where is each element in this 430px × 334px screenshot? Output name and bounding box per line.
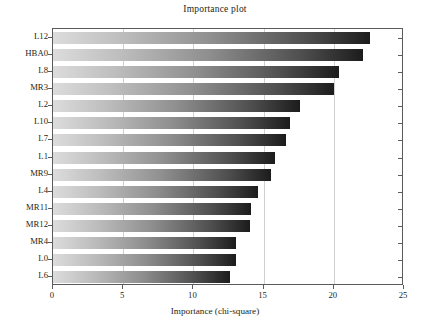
bar <box>53 186 258 198</box>
y-tick-label-L8: L8 <box>0 65 48 75</box>
bar-fill-L2 <box>53 100 300 112</box>
bar-fill-L1 <box>53 152 275 164</box>
right-frame-tick-MR12 <box>398 226 402 227</box>
y-tick-label-MR11: MR11 <box>0 202 48 212</box>
right-frame-tick-MR4 <box>398 243 402 244</box>
chart-title: Importance plot <box>0 4 430 14</box>
bar <box>53 134 286 146</box>
right-frame-tick-L1 <box>398 158 402 159</box>
right-frame-tick-MR3 <box>398 89 402 90</box>
right-frame-tick-L0 <box>398 260 402 261</box>
bar-fill-MR4 <box>53 237 236 249</box>
bar-fill-L0 <box>53 254 236 266</box>
x-tick-label-5: 5 <box>120 290 124 300</box>
x-tick-label-0: 0 <box>50 290 54 300</box>
y-tick-label-L1: L1 <box>0 151 48 161</box>
y-tick-label-L6: L6 <box>0 270 48 280</box>
bar-fill-HBA0 <box>53 49 363 61</box>
right-frame-tick-L2 <box>398 106 402 107</box>
bar <box>53 152 275 164</box>
importance-plot-figure: Importance plot L12HBA0L8MR3L2L10L7L1MR9… <box>0 0 430 334</box>
bar <box>53 220 250 232</box>
bar-fill-L4 <box>53 186 258 198</box>
y-tick-label-L7: L7 <box>0 133 48 143</box>
bar-fill-L12 <box>53 32 370 44</box>
x-tick-mark-5 <box>122 285 123 289</box>
x-tick-mark-15 <box>263 285 264 289</box>
right-frame-tick-HBA0 <box>398 55 402 56</box>
bar <box>53 254 236 266</box>
bar <box>53 83 334 95</box>
bar-fill-L7 <box>53 134 286 146</box>
y-tick-label-L2: L2 <box>0 99 48 109</box>
bar-fill-MR3 <box>53 83 334 95</box>
x-tick-mark-25 <box>403 285 404 289</box>
bar-fill-MR9 <box>53 169 271 181</box>
y-tick-label-L10: L10 <box>0 116 48 126</box>
right-frame-tick-L7 <box>398 140 402 141</box>
bar <box>53 237 236 249</box>
y-tick-label-HBA0: HBA0 <box>0 48 48 58</box>
y-tick-label-MR4: MR4 <box>0 236 48 246</box>
bar <box>53 117 290 129</box>
bar <box>53 203 251 215</box>
bar <box>53 66 339 78</box>
x-axis-title: Importance (chi-square) <box>0 306 430 316</box>
x-tick-mark-20 <box>333 285 334 289</box>
y-tick-label-MR12: MR12 <box>0 219 48 229</box>
y-tick-label-L4: L4 <box>0 185 48 195</box>
bar-fill-MR11 <box>53 203 251 215</box>
bar-fill-L10 <box>53 117 290 129</box>
x-tick-label-25: 25 <box>399 290 408 300</box>
y-tick-label-MR9: MR9 <box>0 168 48 178</box>
bar <box>53 169 271 181</box>
right-frame-tick-L10 <box>398 123 402 124</box>
bar <box>53 49 363 61</box>
right-frame-tick-L6 <box>398 277 402 278</box>
x-tick-label-10: 10 <box>188 290 197 300</box>
right-frame-tick-L4 <box>398 192 402 193</box>
x-tick-label-20: 20 <box>328 290 337 300</box>
bar-fill-MR12 <box>53 220 250 232</box>
right-frame-tick-L8 <box>398 72 402 73</box>
x-tick-mark-10 <box>192 285 193 289</box>
plot-area <box>52 28 403 285</box>
y-tick-label-MR3: MR3 <box>0 82 48 92</box>
right-frame-tick-MR11 <box>398 209 402 210</box>
x-tick-label-15: 15 <box>258 290 267 300</box>
right-frame-tick-MR9 <box>398 175 402 176</box>
y-tick-label-L12: L12 <box>0 31 48 41</box>
y-tick-label-L0: L0 <box>0 253 48 263</box>
bar-fill-L6 <box>53 271 230 283</box>
bar-fill-L8 <box>53 66 339 78</box>
bar <box>53 32 370 44</box>
right-frame-tick-L12 <box>398 38 402 39</box>
x-axis-tick-labels: 0510152025 <box>0 290 430 304</box>
bar <box>53 100 300 112</box>
y-axis-labels: L12HBA0L8MR3L2L10L7L1MR9L4MR11MR12MR4L0L… <box>0 28 48 285</box>
bar <box>53 271 230 283</box>
x-tick-mark-0 <box>52 285 53 289</box>
